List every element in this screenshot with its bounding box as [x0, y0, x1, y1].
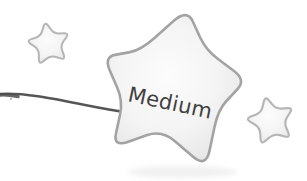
star-illustration: Medium	[0, 0, 307, 181]
wand-line-start-stroke	[0, 95, 18, 97]
small-star-right-icon	[244, 93, 297, 144]
small-star-top-left-icon	[26, 20, 71, 64]
wand-line-icon	[0, 94, 131, 113]
large-star-icon	[108, 15, 241, 161]
wand-line-speck	[10, 98, 12, 100]
star-shadow	[127, 166, 237, 178]
star-illustration-canvas: Medium	[0, 0, 307, 181]
